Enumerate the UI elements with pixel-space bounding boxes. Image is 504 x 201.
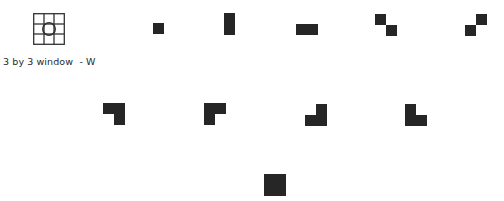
filled-cell xyxy=(224,24,235,35)
filled-cell xyxy=(153,23,164,34)
filled-cell xyxy=(316,115,327,126)
shape-diagonal-pair xyxy=(375,14,397,36)
shape-l-tromino-bottom-right-corner xyxy=(305,104,327,126)
filled-cell xyxy=(465,25,476,36)
filled-cell xyxy=(264,185,275,196)
shape-l-tromino-bottom-left-corner xyxy=(405,104,427,126)
filled-cell xyxy=(307,24,318,35)
shape-single-square xyxy=(153,23,175,45)
filled-cell xyxy=(386,25,397,36)
filled-cell xyxy=(215,103,226,114)
shape-vertical-domino xyxy=(224,13,246,35)
shape-anti-diagonal-pair xyxy=(465,14,487,36)
filled-cell xyxy=(476,14,487,25)
filled-cell xyxy=(316,104,327,115)
filled-cell xyxy=(375,14,386,25)
window-caption: 3 by 3 window - W xyxy=(3,56,96,67)
shape-l-tromino-top-left-corner xyxy=(204,103,226,125)
filled-cell xyxy=(204,103,215,114)
filled-cell xyxy=(405,104,416,115)
filled-cell xyxy=(114,103,125,114)
filled-cell xyxy=(114,114,125,125)
filled-cell xyxy=(103,103,114,114)
shape-full-2x2-square xyxy=(264,174,286,196)
shape-horizontal-domino xyxy=(296,24,318,46)
filled-cell xyxy=(264,174,275,185)
shape-l-tromino-top-right-corner xyxy=(103,103,125,125)
grid-3x3-window-icon xyxy=(33,13,65,45)
filled-cell xyxy=(416,115,427,126)
filled-cell xyxy=(405,115,416,126)
filled-cell xyxy=(305,115,316,126)
filled-cell xyxy=(275,185,286,196)
filled-cell xyxy=(275,174,286,185)
filled-cell xyxy=(224,13,235,24)
filled-cell xyxy=(204,114,215,125)
filled-cell xyxy=(296,24,307,35)
